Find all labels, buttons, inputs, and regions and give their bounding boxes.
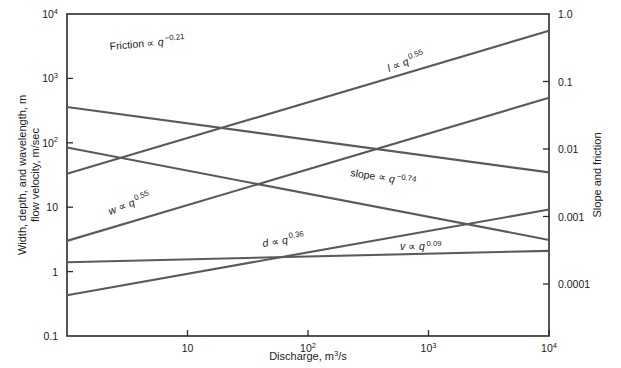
- y-tick-label-right: 0.01: [558, 143, 579, 155]
- y-axis-right-ticks: 1.00.10.010.0010.0001: [543, 8, 590, 290]
- annotation-label-width: w ∝ q0.55: [106, 188, 152, 217]
- y-axis-title-left-line2: flow velocity, m/sec: [29, 128, 41, 222]
- y-tick-label-left: 102: [42, 135, 58, 149]
- y-tick-label-left: 0.1: [43, 330, 58, 342]
- series-line-wavelength: [67, 31, 549, 174]
- y-tick-label-right: 0.001: [558, 211, 584, 223]
- annotation-velocity: v ∝ q0.09: [400, 239, 442, 253]
- annotation-label-slope: slope ∝ q−0.74: [350, 165, 418, 189]
- series-line-friction: [67, 107, 549, 172]
- plot-frame: [67, 14, 549, 336]
- x-axis-ticks: 10102103104: [182, 330, 557, 354]
- annotation-slope: slope ∝ q−0.74: [350, 165, 418, 189]
- y-tick-label-left: 104: [42, 7, 58, 21]
- annotation-label-depth: d ∝ q0.36: [261, 229, 305, 249]
- y-tick-label-right: 1.0: [558, 8, 573, 20]
- y-tick-label-right: 0.1: [558, 76, 573, 88]
- axis-titles: Discharge, m3/sWidth, depth, and wavelen…: [16, 95, 603, 362]
- x-tick-label: 103: [421, 341, 437, 355]
- y-tick-label-right: 0.0001: [558, 278, 590, 290]
- series-annotations: Friction ∝ q−0.21l ∝ q0.55slope ∝ q−0.74…: [106, 32, 442, 252]
- x-tick-label: 10: [182, 342, 194, 354]
- annotation-width: w ∝ q0.55: [106, 188, 152, 217]
- annotation-label-friction: Friction ∝ q−0.21: [109, 32, 185, 52]
- plot-border: [67, 14, 549, 336]
- annotation-friction: Friction ∝ q−0.21: [109, 32, 185, 52]
- y-tick-label-left: 103: [42, 71, 58, 85]
- annotation-label-velocity: v ∝ q0.09: [400, 239, 442, 253]
- data-series-lines: [67, 31, 549, 295]
- chart-figure: 10102103104 1041031021010.1 1.00.10.010.…: [0, 0, 621, 368]
- series-line-width: [67, 98, 549, 241]
- x-tick-label: 104: [541, 341, 557, 355]
- y-tick-label-left: 1: [52, 266, 58, 278]
- y-axis-title-left-line1: Width, depth, and wavelength, m: [16, 95, 28, 255]
- annotation-depth: d ∝ q0.36: [261, 229, 305, 249]
- chart-plot-area: 10102103104 1041031021010.1 1.00.10.010.…: [0, 0, 621, 368]
- y-axis-title-right: Slope and friction: [591, 133, 603, 218]
- x-axis-title: Discharge, m3/s: [269, 349, 347, 363]
- y-tick-label-left: 10: [46, 201, 58, 213]
